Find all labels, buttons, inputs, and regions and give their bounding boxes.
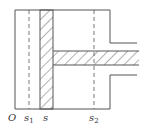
s2-label: s2 [89, 112, 99, 125]
origin-label: O [8, 112, 16, 123]
s-label: s [43, 112, 48, 123]
piston-rod [53, 51, 139, 65]
piston-head [40, 10, 53, 109]
s1-label: s1 [24, 112, 34, 125]
piston-cylinder-diagram: O s1 s s2 [0, 0, 149, 132]
